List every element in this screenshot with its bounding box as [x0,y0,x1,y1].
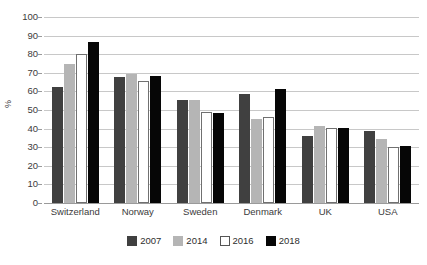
bar-usa-2014[interactable] [376,139,387,203]
bar-group-switzerland [44,17,107,203]
y-tick-mark-60 [38,91,42,92]
bar-group-usa [357,17,420,203]
bar-sweden-2014[interactable] [189,100,200,203]
bar-uk-2007[interactable] [302,136,313,203]
legend-label-2016: 2016 [233,236,254,246]
bar-denmark-2014[interactable] [251,119,262,203]
bar-switzerland-2007[interactable] [52,87,63,203]
bar-group-norway [107,17,170,203]
legend-swatch-2018 [266,236,276,246]
bar-sweden-2007[interactable] [177,100,188,203]
bar-chart: % 1009080706050403020100 SwitzerlandNorw… [0,0,427,265]
y-tick-mark-100 [38,17,42,18]
bar-uk-2018[interactable] [338,128,349,203]
bar-usa-2007[interactable] [364,131,375,203]
legend-item-2014[interactable]: 2014 [173,236,207,246]
y-tick-mark-50 [38,110,42,111]
bar-denmark-2016[interactable] [263,117,274,203]
bar-norway-2016[interactable] [138,81,149,203]
y-tick-label-20: 20 [4,161,38,171]
bar-usa-2018[interactable] [400,146,411,203]
y-tick-mark-40 [38,129,42,130]
bar-group-denmark [232,17,295,203]
bar-group-sweden [169,17,232,203]
y-tick-mark-20 [38,166,42,167]
legend-swatch-2007 [127,236,137,246]
legend-swatch-2014 [173,236,183,246]
x-axis-labels: SwitzerlandNorwaySwedenDenmarkUKUSA [44,206,419,217]
y-tick-label-50: 50 [4,105,38,115]
bar-switzerland-2016[interactable] [76,54,87,203]
y-tick-label-70: 70 [4,68,38,78]
y-tick-label-10: 10 [4,180,38,190]
x-label-usa: USA [357,206,420,217]
bar-group-uk [294,17,357,203]
y-tick-label-0: 0 [4,198,38,208]
x-label-uk: UK [294,206,357,217]
y-tick-mark-30 [38,147,42,148]
x-label-sweden: Sweden [169,206,232,217]
bar-norway-2014[interactable] [126,74,137,203]
x-label-switzerland: Switzerland [44,206,107,217]
legend-label-2007: 2007 [140,236,161,246]
bar-groups [44,17,419,203]
bar-uk-2014[interactable] [314,126,325,203]
bar-sweden-2018[interactable] [213,113,224,203]
legend-swatch-2016 [220,236,230,246]
bar-sweden-2016[interactable] [201,112,212,203]
y-axis-ticks: 1009080706050403020100 [0,17,38,203]
y-tick-mark-0 [38,203,42,204]
x-label-norway: Norway [107,206,170,217]
bar-norway-2018[interactable] [150,76,161,203]
legend-label-2014: 2014 [186,236,207,246]
legend-item-2007[interactable]: 2007 [127,236,161,246]
y-tick-label-40: 40 [4,124,38,134]
bar-switzerland-2018[interactable] [88,42,99,203]
x-label-denmark: Denmark [232,206,295,217]
y-tick-label-90: 90 [4,31,38,41]
y-tick-label-80: 80 [4,49,38,59]
y-tick-mark-10 [38,184,42,185]
gridline-0 [44,203,419,204]
bar-denmark-2018[interactable] [275,89,286,203]
legend-item-2016[interactable]: 2016 [220,236,254,246]
bar-usa-2016[interactable] [388,147,399,203]
legend-label-2018: 2018 [279,236,300,246]
bar-denmark-2007[interactable] [239,94,250,203]
y-tick-label-60: 60 [4,87,38,97]
y-tick-label-30: 30 [4,142,38,152]
y-tick-label-100: 100 [4,12,38,22]
legend-item-2018[interactable]: 2018 [266,236,300,246]
bar-switzerland-2014[interactable] [64,64,75,204]
y-tick-mark-70 [38,73,42,74]
y-tick-mark-90 [38,36,42,37]
bar-uk-2016[interactable] [326,128,337,203]
y-tick-mark-80 [38,54,42,55]
bar-norway-2007[interactable] [114,77,125,203]
chart-legend: 2007201420162018 [0,236,427,246]
